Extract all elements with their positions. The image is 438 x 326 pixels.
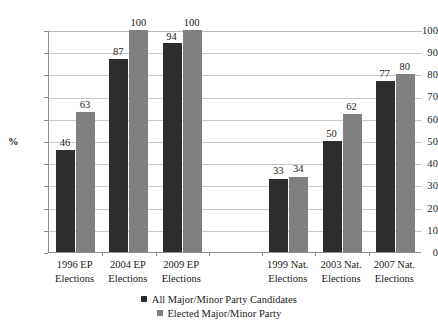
category-tick (209, 252, 210, 256)
bar-series1 (376, 81, 395, 252)
bar-value-series2: 34 (281, 164, 315, 174)
bar-series1 (269, 179, 288, 252)
bar-series2 (76, 112, 95, 252)
bar-series2 (289, 177, 308, 253)
category-tick (262, 252, 263, 256)
bar-group: 87 100 (102, 30, 155, 252)
bar-value-series2: 63 (68, 100, 102, 110)
bar-value-series2: 100 (175, 18, 209, 28)
bar-group-empty (209, 30, 262, 252)
plot-area: 46 63 87 100 94 100 33 3 (48, 31, 421, 253)
category-tick (369, 252, 370, 256)
bar-series2 (396, 74, 415, 252)
legend-item-series1[interactable]: All Major/Minor Party Candidates (0, 292, 438, 306)
bar-group: 50 62 (316, 30, 369, 252)
bar-value-series1: 87 (101, 47, 135, 57)
bar-value-series1: 46 (48, 138, 82, 148)
bar-group: 46 63 (49, 30, 102, 252)
x-axis-label-line1: 2009 EP (149, 258, 213, 272)
legend-label: All Major/Minor Party Candidates (152, 294, 297, 305)
x-axis-label-line2: Elections (362, 272, 426, 286)
bar-series1 (109, 59, 128, 252)
bar-series1 (323, 141, 342, 252)
bar-value-series2: 100 (121, 18, 155, 28)
category-tick (102, 252, 103, 256)
legend-swatch-icon (157, 310, 163, 316)
bar-value-series1: 94 (155, 32, 189, 42)
bar-group: 94 100 (156, 30, 209, 252)
x-axis-label-line2: Elections (149, 272, 213, 286)
bar-group: 77 80 (369, 30, 422, 252)
bar-value-series2: 62 (335, 102, 369, 112)
legend-swatch-icon (141, 296, 147, 302)
y-axis-title: % (8, 137, 19, 147)
category-tick (315, 252, 316, 256)
bar-value-series2: 80 (388, 62, 422, 72)
bar-value-series1: 50 (315, 129, 349, 139)
category-tick (156, 252, 157, 256)
legend-label: Elected Major/Minor Party (167, 308, 281, 319)
legend-item-series2[interactable]: Elected Major/Minor Party (0, 306, 438, 320)
bar-chart: % 100 90 80 70 60 50 40 30 20 10 0 46 (0, 0, 438, 326)
legend: All Major/Minor Party Candidates Elected… (0, 292, 438, 320)
x-axis-label-group3: 2009 EP Elections (149, 258, 213, 286)
bar-series2 (183, 30, 202, 252)
bar-series1 (163, 43, 182, 252)
y-tick-mark (44, 253, 48, 254)
x-axis-label-group7: 2007 Nat. Elections (362, 258, 426, 286)
bar-series1 (56, 150, 75, 252)
bar-series2 (129, 30, 148, 252)
x-axis-label-line1: 2007 Nat. (362, 258, 426, 272)
bar-group: 33 34 (262, 30, 315, 252)
